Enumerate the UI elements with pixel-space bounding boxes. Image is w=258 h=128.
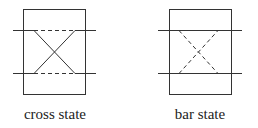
cross-state-label: cross state <box>24 106 86 122</box>
bar-state-diagram <box>158 10 242 95</box>
switch-states-diagram: cross state bar state <box>0 0 258 128</box>
bar-state-box <box>170 10 232 95</box>
cross-state-diagram <box>13 10 96 95</box>
bar-state-label: bar state <box>175 106 226 122</box>
